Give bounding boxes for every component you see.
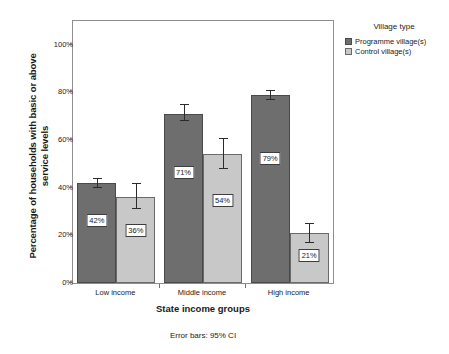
- error-bar-line: [184, 104, 185, 121]
- legend-swatch-icon: [345, 48, 352, 55]
- bar-value-label: 21%: [299, 249, 320, 262]
- error-bar-cap-upper: [266, 90, 275, 91]
- x-axis-tick-mark: [245, 284, 246, 288]
- error-bar-cap-lower: [132, 208, 141, 209]
- error-bar-cap-upper: [93, 178, 102, 179]
- legend-item-label: Programme village(s): [355, 37, 426, 46]
- y-axis-title-line-2: service levels: [39, 21, 51, 291]
- error-bar-line: [136, 183, 137, 209]
- chart-annotation: Error bars: 95% CI: [72, 331, 334, 340]
- bar-value-label: 79%: [260, 152, 281, 165]
- y-axis-tick-mark: [69, 139, 73, 140]
- legend: Village type Programme village(s)Control…: [345, 22, 449, 57]
- plot-area: 0%20%40%60%80%100%42%36%71%54%79%21%: [73, 21, 333, 283]
- chart-figure: Percentage of households with basic or a…: [0, 0, 449, 354]
- x-axis-tick-mark: [159, 284, 160, 288]
- y-axis-tick-mark: [69, 44, 73, 45]
- legend-items: Programme village(s)Control village(s): [345, 37, 449, 56]
- legend-swatch-icon: [345, 38, 352, 45]
- bar-control: 36%: [116, 197, 155, 283]
- plot-frame: 0%20%40%60%80%100%42%36%71%54%79%21%: [72, 20, 334, 284]
- legend-item[interactable]: Programme village(s): [345, 37, 449, 46]
- bar-value-label: 54%: [212, 194, 233, 207]
- x-axis-group-label: High income: [268, 288, 310, 297]
- legend-item[interactable]: Control village(s): [345, 47, 449, 56]
- y-axis-tick-mark: [69, 91, 73, 92]
- error-bar-cap-lower: [219, 168, 228, 169]
- error-bar-cap-upper: [180, 104, 189, 105]
- bar-value-label: 36%: [125, 224, 146, 237]
- legend-title: Village type: [345, 22, 449, 31]
- y-axis-tick-mark: [69, 234, 73, 235]
- y-axis-title-line-1: Percentage of households with basic or a…: [27, 21, 39, 291]
- x-axis-group-label: Low income: [95, 288, 135, 297]
- y-axis-tick-mark: [69, 187, 73, 188]
- y-axis-title: Percentage of households with basic or a…: [27, 21, 51, 291]
- x-axis-title: State income groups: [72, 303, 334, 314]
- error-bar-cap-lower: [305, 242, 314, 243]
- error-bar-cap-upper: [132, 183, 141, 184]
- error-bar-cap-upper: [219, 138, 228, 139]
- y-axis-tick-label: 0%: [47, 278, 73, 288]
- bar-programme: 71%: [164, 114, 203, 283]
- y-axis-tick-label: 100%: [47, 40, 73, 50]
- error-bar-line: [223, 138, 224, 169]
- y-axis-tick-label: 80%: [47, 87, 73, 97]
- bar-control: 54%: [203, 154, 242, 283]
- y-axis-tick-mark: [69, 282, 73, 283]
- error-bar-cap-lower: [93, 187, 102, 188]
- y-axis-tick-label: 40%: [47, 183, 73, 193]
- y-axis-tick-label: 60%: [47, 135, 73, 145]
- bar-programme: 79%: [251, 95, 290, 283]
- legend-item-label: Control village(s): [355, 47, 411, 56]
- bar-programme: 42%: [77, 183, 116, 283]
- x-axis-group-label: Middle income: [178, 288, 226, 297]
- error-bar-cap-lower: [180, 120, 189, 121]
- error-bar-cap-upper: [305, 223, 314, 224]
- bar-value-label: 71%: [173, 166, 194, 179]
- error-bar-line: [309, 223, 310, 242]
- error-bar-cap-lower: [266, 99, 275, 100]
- y-axis-tick-label: 20%: [47, 230, 73, 240]
- bar-value-label: 42%: [86, 214, 107, 227]
